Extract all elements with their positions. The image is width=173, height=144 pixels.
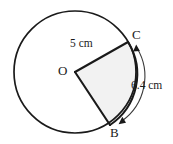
geometry-figure: O C B 5 cm 6.4 cm bbox=[0, 0, 173, 144]
arc-measure-arrowhead-c-icon bbox=[133, 45, 140, 52]
radius-dimension-label: 5 cm bbox=[70, 38, 93, 50]
point-label-b: B bbox=[110, 126, 119, 139]
point-label-c: C bbox=[132, 28, 141, 41]
figure-canvas bbox=[0, 0, 173, 144]
arc-length-dimension-label: 6.4 cm bbox=[131, 80, 162, 92]
center-point-label-o: O bbox=[58, 64, 67, 77]
